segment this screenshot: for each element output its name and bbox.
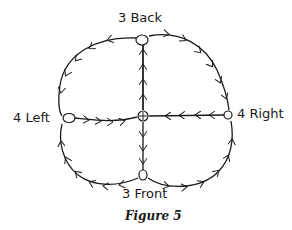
node-front <box>139 170 147 180</box>
label-right: 4 Right <box>237 106 284 121</box>
edge-front-to-left <box>61 124 138 184</box>
node-left <box>63 114 75 123</box>
node-back <box>136 35 148 45</box>
edge-right-to-center <box>149 115 224 116</box>
edge-back-to-left <box>59 38 136 116</box>
edge-left-to-center <box>74 117 137 121</box>
label-front: 3 Front <box>122 186 167 201</box>
label-left: 4 Left <box>13 110 50 125</box>
edge-back-to-right <box>149 35 229 110</box>
node-right <box>224 111 232 119</box>
label-back: 3 Back <box>118 10 162 25</box>
figure-caption: Figure 5 <box>125 209 182 223</box>
edge-front-to-right <box>148 121 232 186</box>
